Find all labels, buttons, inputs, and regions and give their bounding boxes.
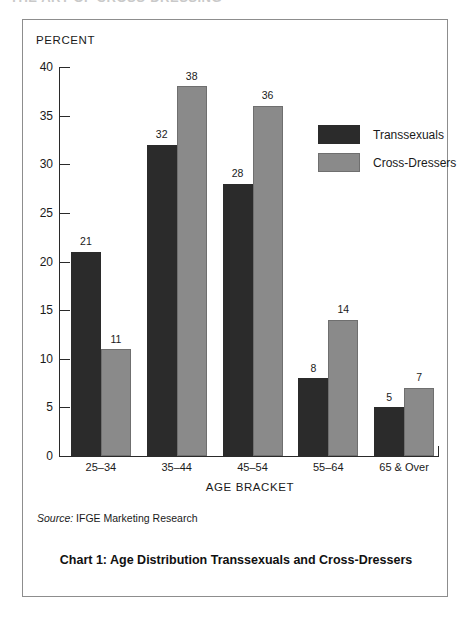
bar-value-label: 11 (99, 334, 133, 345)
x-axis-category-label: 65 & Over (374, 461, 434, 473)
y-axis-tick-labels: 0510152025303540 (27, 67, 53, 456)
cropped-page-header: THE ART OF CROSS-DRESSING (0, 0, 468, 16)
bar-transsexuals[interactable] (223, 184, 253, 456)
y-axis-tick-label: 25 (27, 207, 53, 219)
legend-item: Transsexuals (318, 125, 456, 144)
y-axis-tick-label: 5 (27, 401, 53, 413)
bar-cross-dressers[interactable] (177, 86, 207, 456)
bar-value-label: 5 (372, 392, 406, 403)
y-axis-tick-label: 15 (27, 304, 53, 316)
y-axis-tick-label: 30 (27, 158, 53, 170)
legend-item-label: Cross-Dressers (373, 156, 456, 170)
y-axis-tick-label: 35 (27, 110, 53, 122)
bar-value-label: 7 (402, 372, 436, 383)
y-axis-title: PERCENT (36, 34, 95, 46)
y-axis-tick-label: 20 (27, 256, 53, 268)
bar-transsexuals[interactable] (374, 407, 404, 456)
source-note: Source: IFGE Marketing Research (37, 512, 198, 524)
chart-caption: Chart 1: Age Distribution Transsexuals a… (23, 553, 449, 567)
legend-swatch-icon (318, 153, 360, 172)
x-axis-line (59, 456, 439, 457)
x-axis-title: AGE BRACKET (59, 481, 441, 493)
x-axis-category-label: 55–64 (298, 461, 358, 473)
x-axis-category-labels: 25–3435–4445–5455–6465 & Over (59, 461, 441, 477)
bar-value-label: 8 (296, 363, 330, 374)
legend-item: Cross-Dressers (318, 153, 456, 172)
bar-value-label: 14 (326, 304, 360, 315)
y-axis-tick-label: 40 (27, 61, 53, 73)
source-value: IFGE Marketing Research (76, 512, 197, 524)
bar-transsexuals[interactable] (298, 378, 328, 456)
x-axis-category-label: 45–54 (223, 461, 283, 473)
legend-swatch-icon (318, 125, 360, 144)
bar-group: 2836 (223, 67, 283, 456)
bar-cross-dressers[interactable] (101, 349, 131, 456)
bar-cross-dressers[interactable] (404, 388, 434, 456)
y-axis-tick-label: 10 (27, 353, 53, 365)
bar-value-label: 28 (221, 168, 255, 179)
bar-value-label: 36 (251, 90, 285, 101)
bar-transsexuals[interactable] (147, 145, 177, 456)
cropped-header-text: THE ART OF CROSS-DRESSING (10, 0, 222, 5)
y-axis-tick-label: 0 (27, 450, 53, 462)
figure-frame: PERCENT 0510152025303540 211132382836814… (22, 19, 448, 597)
x-axis-category-label: 35–44 (147, 461, 207, 473)
bar-value-label: 38 (175, 71, 209, 82)
x-axis-category-label: 25–34 (71, 461, 131, 473)
legend-item-label: Transsexuals (373, 128, 444, 142)
bar-group: 3238 (147, 67, 207, 456)
bar-group: 2111 (71, 67, 131, 456)
source-label: Source: (37, 512, 73, 524)
bar-value-label: 21 (69, 236, 103, 247)
bar-cross-dressers[interactable] (328, 320, 358, 456)
bar-transsexuals[interactable] (71, 252, 101, 456)
bar-cross-dressers[interactable] (253, 106, 283, 456)
bar-value-label: 32 (145, 129, 179, 140)
legend: TranssexualsCross-Dressers (318, 125, 456, 181)
